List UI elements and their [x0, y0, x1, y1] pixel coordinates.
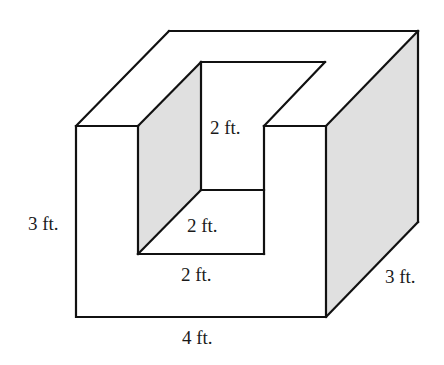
label-inner-height: 2 ft. [210, 117, 241, 138]
notched-box-diagram: 2 ft. 2 ft. 2 ft. 3 ft. 3 ft. 4 ft. [0, 0, 444, 365]
label-inner-width: 2 ft. [181, 264, 212, 285]
label-outer-depth: 3 ft. [385, 266, 416, 287]
diagram-canvas: 2 ft. 2 ft. 2 ft. 3 ft. 3 ft. 4 ft. [0, 0, 444, 365]
label-outer-width: 4 ft. [182, 327, 213, 348]
notch-right-top-edge [264, 62, 325, 126]
label-inner-depth: 2 ft. [187, 215, 218, 236]
label-outer-height: 3 ft. [28, 213, 59, 234]
